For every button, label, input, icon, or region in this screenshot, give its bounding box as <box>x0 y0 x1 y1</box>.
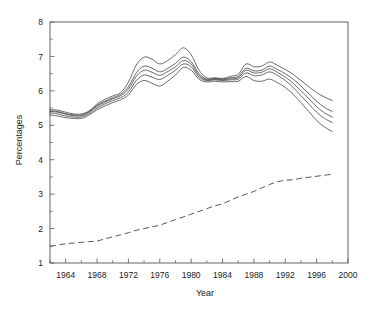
line-chart: 1964196819721976198019841988199219962000… <box>0 0 374 311</box>
y-tick-label: 6 <box>38 86 43 96</box>
y-tick-label: 1 <box>38 258 43 268</box>
series-dashed-trend <box>50 174 332 246</box>
x-axis-title: Year <box>196 288 214 298</box>
x-tick-label: 1996 <box>307 270 326 280</box>
x-tick-label: 1988 <box>244 270 263 280</box>
x-tick-label: 1972 <box>119 270 138 280</box>
y-tick-label: 4 <box>38 155 43 165</box>
x-tick-label: 1980 <box>182 270 201 280</box>
x-tick-label: 2000 <box>339 270 358 280</box>
data-series-group <box>50 48 332 247</box>
x-tick-label: 1964 <box>56 270 75 280</box>
y-tick-label: 5 <box>38 120 43 130</box>
plot-frame <box>50 22 348 263</box>
x-tick-label: 1992 <box>276 270 295 280</box>
x-tick-label: 1984 <box>213 270 232 280</box>
y-tick-label: 8 <box>38 17 43 27</box>
y-tick-labels: 12345678 <box>38 17 43 268</box>
x-axis-ticks <box>50 259 348 264</box>
y-tick-label: 2 <box>38 224 43 234</box>
y-tick-label: 3 <box>38 189 43 199</box>
y-axis-title: Percentages <box>14 114 24 165</box>
x-tick-labels: 1964196819721976198019841988199219962000 <box>56 270 357 280</box>
x-tick-label: 1976 <box>150 270 169 280</box>
y-tick-label: 7 <box>38 52 43 62</box>
x-tick-label: 1968 <box>88 270 107 280</box>
y-axis-ticks <box>50 22 55 263</box>
series-upper-mid-band <box>50 57 332 115</box>
chart-figure: 1964196819721976198019841988199219962000… <box>0 0 374 311</box>
